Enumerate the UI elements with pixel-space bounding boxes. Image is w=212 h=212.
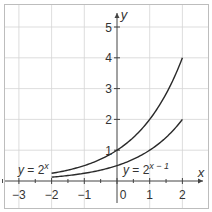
y-axis-arrow-icon <box>115 13 120 18</box>
x-tick-label: 2 <box>179 188 186 202</box>
y-tick-label: 1 <box>105 144 112 158</box>
equation-labels: y = 2xy = 2x − 1 <box>17 161 169 177</box>
x-tick-label: −3 <box>12 188 26 202</box>
x-tick-label: 0 <box>120 188 127 202</box>
y-tick-label: 5 <box>105 21 112 35</box>
grid-lines <box>5 5 208 208</box>
x-tick-label: 1 <box>146 188 153 202</box>
label-2-pow-x-minus-1: y = 2x − 1 <box>122 161 169 177</box>
chart-frame <box>5 5 209 209</box>
y-axis-label: y <box>120 7 129 22</box>
exponential-graph: −3−2−101212345xy y = 2xy = 2x − 1 <box>0 0 212 212</box>
y-tick-label: 2 <box>105 113 112 127</box>
x-axis-label: x <box>197 165 205 180</box>
x-tick-label: −2 <box>45 188 59 202</box>
y-tick-label: 4 <box>105 51 112 65</box>
y-tick-label: 3 <box>105 82 112 96</box>
x-tick-label: −1 <box>77 188 91 202</box>
label-2-pow-x: y = 2x <box>17 161 49 177</box>
